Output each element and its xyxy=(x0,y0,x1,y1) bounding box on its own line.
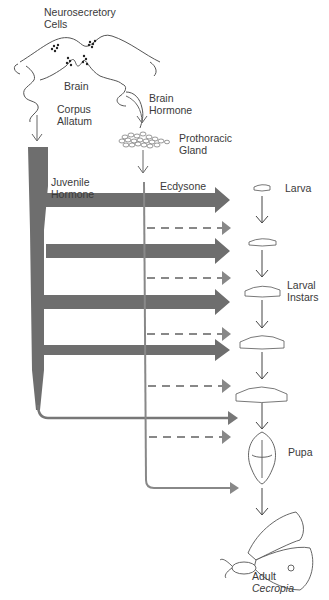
pupa-label: Pupa xyxy=(288,446,313,458)
metamorphosis-diagram xyxy=(0,0,329,600)
instars-line2: Instars xyxy=(287,291,319,303)
gland-line1: Prothoracic xyxy=(179,132,232,144)
brain-hormone-label: Brain Hormone xyxy=(149,92,192,116)
brain-hormone-line1: Brain xyxy=(149,92,192,104)
corpus-allatum-label: Corpus Allatum xyxy=(57,103,92,127)
neurosecretory-label: Neurosecretory Cells xyxy=(44,6,116,30)
juvenile-hormone-arrows xyxy=(42,187,230,361)
larval-instars-label: Larval Instars xyxy=(287,279,319,303)
corpus-allatum-arrow xyxy=(32,115,42,141)
prothoracic-gland-label: Prothoracic Gland xyxy=(179,132,232,156)
adult-label: Adult Cecropia xyxy=(252,570,294,594)
prothoracic-gland xyxy=(119,132,170,148)
larva-label: Larva xyxy=(285,182,311,194)
instars-line1: Larval xyxy=(287,279,319,291)
jh-line2: Hormone xyxy=(51,188,94,200)
corpus-line2: Allatum xyxy=(57,115,92,127)
gland-arrow xyxy=(138,150,148,173)
brain-hormone-line2: Hormone xyxy=(149,104,192,116)
juvenile-hormone-label: Juvenile Hormone xyxy=(51,176,94,200)
gland-line2: Gland xyxy=(179,144,232,156)
brain-hormone-arrow xyxy=(126,96,147,123)
pupa-drawing xyxy=(249,432,276,484)
adult-line: Adult xyxy=(252,570,294,582)
corpus-line1: Corpus xyxy=(57,103,92,115)
neurosecretory-line2: Cells xyxy=(44,18,116,30)
ecdysone-dashed-arrows xyxy=(147,228,222,437)
juvenile-hormone-trunk xyxy=(28,147,48,410)
species-line: Cecropia xyxy=(252,582,294,594)
neurosecretory-line1: Neurosecretory xyxy=(44,6,116,18)
neurosecretory-cells xyxy=(51,40,96,66)
brain-label: Brain xyxy=(64,80,89,92)
jh-line1: Juvenile xyxy=(51,176,94,188)
ecdysone-label: Ecdysone xyxy=(160,180,206,192)
juvenile-hormone-final-line xyxy=(38,405,228,418)
